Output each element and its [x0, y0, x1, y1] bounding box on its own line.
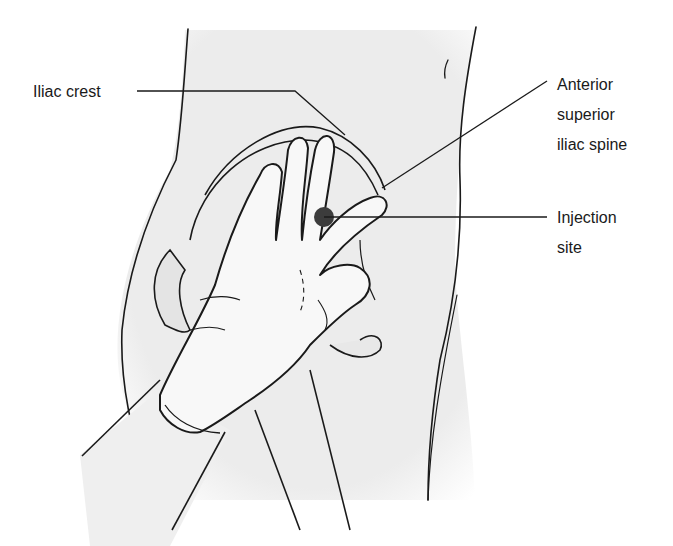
label-iliac-crest: Iliac crest — [33, 81, 101, 102]
label-anterior-superior-iliac-spine: Anterior superior iliac spine — [557, 70, 627, 160]
label-injection-site: Injection site — [557, 203, 617, 263]
